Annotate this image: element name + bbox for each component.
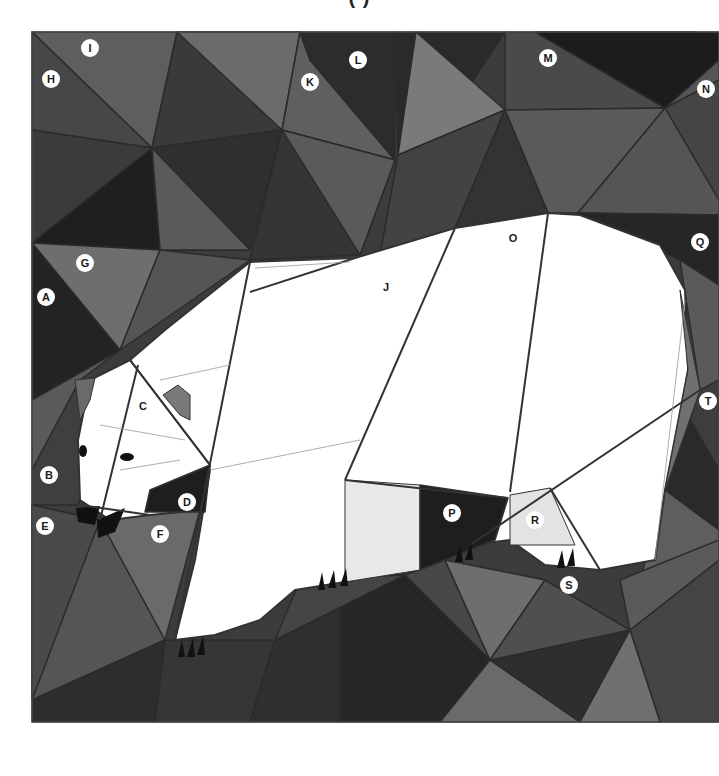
svg-text:R: R <box>531 514 539 526</box>
label-L: L <box>349 51 367 69</box>
svg-text:M: M <box>543 52 552 64</box>
label-F: F <box>151 525 169 543</box>
svg-text:C: C <box>139 400 147 412</box>
svg-text:B: B <box>45 469 53 481</box>
label-Q: Q <box>691 233 709 251</box>
svg-text:S: S <box>565 579 572 591</box>
label-I: I <box>81 39 99 57</box>
svg-text:I: I <box>88 42 91 54</box>
polar-bear-quilt-pattern: I H L K M N G A O Q J C T B D E F P R S <box>0 0 719 776</box>
svg-text:E: E <box>41 520 48 532</box>
label-T: T <box>699 392 717 410</box>
label-D: D <box>178 493 196 511</box>
label-P: P <box>443 504 461 522</box>
svg-text:D: D <box>183 496 191 508</box>
svg-text:J: J <box>383 281 389 293</box>
svg-text:L: L <box>355 54 362 66</box>
svg-text:T: T <box>705 395 712 407</box>
svg-text:O: O <box>509 232 518 244</box>
svg-text:K: K <box>306 76 314 88</box>
label-O: O <box>509 232 518 244</box>
label-M: M <box>539 49 557 67</box>
label-N: N <box>697 80 715 98</box>
label-J: J <box>383 281 389 293</box>
label-B: B <box>40 466 58 484</box>
svg-text:G: G <box>81 257 90 269</box>
label-C: C <box>139 400 147 412</box>
svg-text:H: H <box>47 73 55 85</box>
label-S: S <box>560 576 578 594</box>
svg-text:F: F <box>157 528 164 540</box>
label-R: R <box>526 511 544 529</box>
label-G: G <box>76 254 94 272</box>
label-E: E <box>36 517 54 535</box>
svg-text:P: P <box>448 507 455 519</box>
svg-text:A: A <box>42 291 50 303</box>
svg-text:Q: Q <box>696 236 705 248</box>
label-A: A <box>37 288 55 306</box>
label-H: H <box>42 70 60 88</box>
svg-text:N: N <box>702 83 710 95</box>
label-K: K <box>301 73 319 91</box>
